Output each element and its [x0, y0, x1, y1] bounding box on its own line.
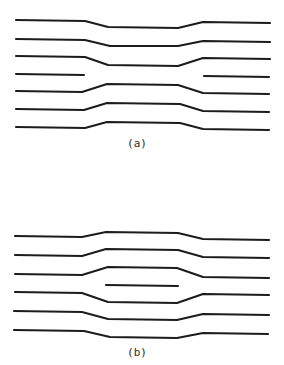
- lattice-line-dip: [16, 20, 270, 28]
- panel-b-caption: (b): [127, 346, 147, 359]
- lattice-line-dip: [14, 311, 269, 320]
- lattice-line-dip: [14, 330, 268, 338]
- lattice-line-broken-right: [204, 76, 269, 77]
- lattice-line-bulge: [16, 122, 269, 130]
- lattice-line-dip: [15, 292, 269, 303]
- lattice-line-dip: [16, 56, 270, 66]
- lattice-line-bulge: [15, 232, 269, 240]
- lattice-line-dip: [16, 39, 270, 46]
- panel-b-inserted-plane: [14, 232, 269, 338]
- panel-a-edge-dislocation: [16, 20, 270, 130]
- lattice-line-bulge: [15, 267, 269, 278]
- lattice-line-bulge: [16, 103, 269, 112]
- lattice-line-bulge: [15, 249, 269, 258]
- panel-a-caption: (a): [127, 137, 147, 150]
- lattice-line-inserted: [106, 285, 178, 286]
- lattice-line-bulge: [16, 84, 269, 94]
- lattice-line-broken-left: [16, 74, 84, 75]
- dislocation-diagram: (a) (b): [0, 0, 284, 365]
